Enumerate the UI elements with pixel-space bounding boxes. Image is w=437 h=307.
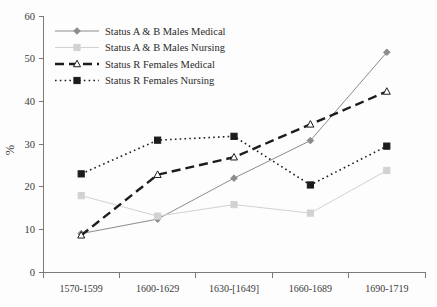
data-point-marker: [384, 143, 390, 149]
data-point-marker: [74, 77, 80, 83]
data-point-marker: [74, 28, 81, 35]
line-chart: 01020304050601570-15991600-16291630-[164…: [0, 0, 437, 307]
legend-item[interactable]: Status R Females Medical: [55, 59, 215, 70]
x-category-label: 1600-1629: [136, 283, 179, 294]
series-line: [81, 92, 387, 236]
data-point-marker: [307, 210, 313, 216]
data-point-marker: [307, 121, 314, 128]
data-point-marker: [384, 167, 390, 173]
legend-item[interactable]: Status A & B Males Nursing: [55, 42, 226, 53]
x-category-label: 1660-1689: [289, 283, 332, 294]
y-tick-label: 30: [25, 139, 36, 150]
y-tick-label: 20: [25, 181, 36, 192]
x-category-label: 1630-[1649]: [209, 283, 259, 294]
x-category-label: 1690-1719: [365, 283, 408, 294]
data-point-marker: [231, 175, 238, 182]
data-point-marker: [78, 193, 84, 199]
legend-item-label: Status R Females Nursing: [105, 75, 215, 86]
legend-item[interactable]: Status R Females Nursing: [55, 75, 215, 86]
data-point-marker: [155, 213, 161, 219]
legend-item-label: Status A & B Males Nursing: [105, 42, 226, 53]
series-group: [78, 88, 391, 238]
data-point-marker: [78, 171, 84, 177]
legend-item-label: Status R Females Medical: [105, 59, 215, 70]
legend-item-label: Status A & B Males Medical: [105, 26, 226, 37]
data-point-marker: [307, 182, 313, 188]
legend: Status A & B Males MedicalStatus A & B M…: [55, 26, 226, 87]
y-tick-label: 10: [25, 224, 36, 235]
data-point-marker: [155, 137, 161, 143]
data-point-marker: [231, 201, 237, 207]
chart-canvas: 01020304050601570-15991600-16291630-[164…: [0, 0, 437, 307]
data-point-marker: [383, 88, 390, 95]
data-point-marker: [231, 133, 237, 139]
legend-item[interactable]: Status A & B Males Medical: [55, 26, 226, 37]
y-tick-label: 60: [25, 11, 36, 22]
y-tick-label: 40: [25, 96, 36, 107]
x-category-label: 1570-1599: [60, 283, 103, 294]
y-axis-title: %: [3, 145, 17, 155]
data-point-marker: [74, 44, 80, 50]
y-tick-label: 50: [25, 53, 36, 64]
y-tick-label: 0: [30, 267, 35, 278]
